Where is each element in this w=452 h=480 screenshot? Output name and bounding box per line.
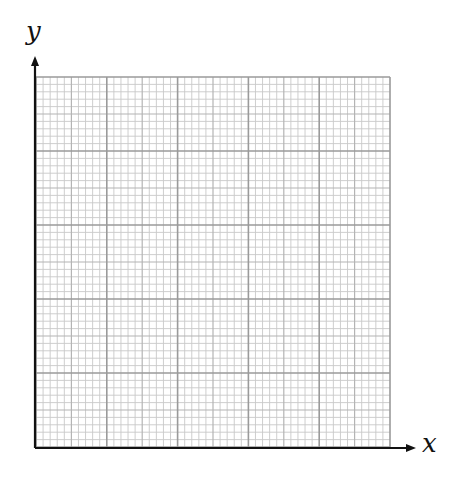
x-axis-label: x — [422, 430, 437, 456]
grid-lines — [36, 77, 390, 447]
y-axis-arrow-icon — [31, 56, 39, 66]
graph-paper-diagram: y x — [0, 0, 452, 480]
grid-paper — [0, 0, 452, 480]
y-axis-label: y — [26, 18, 41, 44]
axes — [31, 56, 416, 452]
x-axis-arrow-icon — [406, 444, 416, 452]
